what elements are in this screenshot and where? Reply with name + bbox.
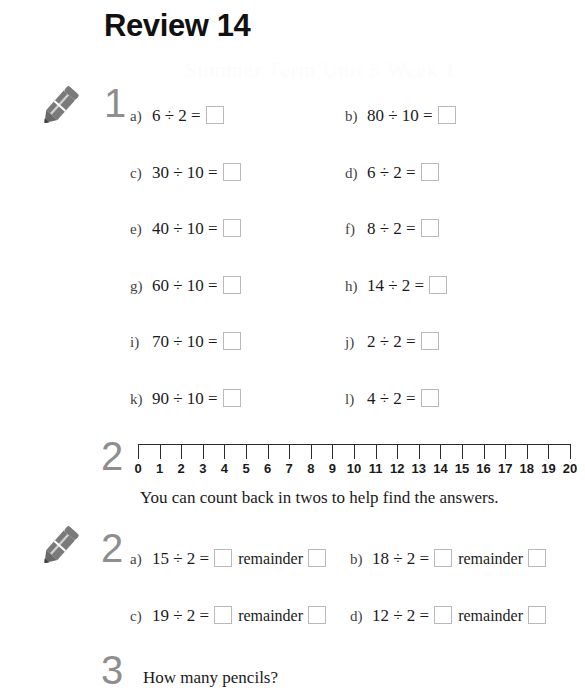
exercise-expression: 6 ÷ 2 =: [367, 164, 416, 181]
worksheet-page: Review 14 Summer Term Unit 5 Week 1: [0, 0, 585, 697]
answer-box[interactable]: [214, 549, 232, 567]
remainder-box[interactable]: [308, 549, 326, 567]
number-line-tick: [570, 444, 571, 459]
exercise-item: f)8 ÷ 2 =: [345, 219, 441, 237]
exercise-expression: 6 ÷ 2 =: [152, 107, 201, 124]
answer-box[interactable]: [223, 276, 241, 294]
answer-box[interactable]: [214, 606, 232, 624]
number-line-hint: You can count back in twos to help find …: [140, 488, 499, 508]
exercise-label: d): [350, 609, 370, 624]
remainder-label: remainder: [458, 550, 523, 567]
remainder-box[interactable]: [528, 549, 546, 567]
answer-box[interactable]: [206, 106, 224, 124]
exercise-label: g): [130, 279, 150, 294]
exercise-item: h)14 ÷ 2 =: [345, 276, 449, 294]
number-line-label: 18: [520, 461, 534, 476]
exercise-item: b)18 ÷ 2 =remainder: [350, 549, 548, 567]
number-line-label: 5: [242, 461, 249, 476]
number-line-label: 3: [199, 461, 206, 476]
number-line-tick: [462, 444, 463, 459]
exercise-label: c): [130, 166, 150, 181]
exercise-expression: 90 ÷ 10 =: [152, 390, 218, 407]
answer-box[interactable]: [434, 549, 452, 567]
number-line-tick: [376, 444, 377, 459]
number-line-tick: [440, 444, 441, 459]
question-3-prompt: How many pencils?: [143, 668, 278, 688]
page-title: Review 14: [104, 8, 250, 44]
exercise-expression: 8 ÷ 2 =: [367, 220, 416, 237]
question-number-2: 2: [101, 528, 123, 568]
exercise-expression: 70 ÷ 10 =: [152, 333, 218, 350]
exercise-item: k)90 ÷ 10 =: [130, 389, 243, 407]
answer-box[interactable]: [223, 389, 241, 407]
exercise-item: d)6 ÷ 2 =: [345, 163, 441, 181]
exercise-item: b)80 ÷ 10 =: [345, 106, 458, 124]
number-line: 01234567891011121314151617181920: [138, 444, 570, 484]
exercise-item: l)4 ÷ 2 =: [345, 389, 441, 407]
scan-ghost-text: Summer Term Unit 5 Week 1: [185, 58, 456, 83]
number-line-tick: [160, 444, 161, 459]
exercise-item: a)6 ÷ 2 =: [130, 106, 226, 124]
exercise-expression: 18 ÷ 2 =: [372, 550, 429, 567]
number-line-tick: [397, 444, 398, 459]
answer-box[interactable]: [421, 332, 439, 350]
exercise-label: d): [345, 166, 365, 181]
exercise-label: h): [345, 279, 365, 294]
pencil-icon: [28, 522, 94, 572]
number-line-label: 7: [286, 461, 293, 476]
exercise-label: f): [345, 222, 365, 237]
exercise-label: b): [345, 109, 365, 124]
number-line-label: 8: [307, 461, 314, 476]
answer-box[interactable]: [223, 219, 241, 237]
number-line-label: 16: [476, 461, 490, 476]
exercise-item: j)2 ÷ 2 =: [345, 332, 441, 350]
number-line-label: 6: [264, 461, 271, 476]
number-line-label: 4: [221, 461, 228, 476]
exercise-item: a)15 ÷ 2 =remainder: [130, 549, 328, 567]
number-line-tick: [181, 444, 182, 459]
question-number-1: 1: [104, 83, 126, 123]
question-number-3: 3: [101, 650, 123, 690]
exercise-expression: 30 ÷ 10 =: [152, 164, 218, 181]
number-line-tick: [548, 444, 549, 459]
exercise-expression: 19 ÷ 2 =: [152, 607, 209, 624]
exercise-label: b): [350, 552, 370, 567]
remainder-label: remainder: [238, 550, 303, 567]
exercise-label: e): [130, 222, 150, 237]
answer-box[interactable]: [421, 389, 439, 407]
answer-box[interactable]: [223, 163, 241, 181]
number-line-tick: [419, 444, 420, 459]
number-line-label: 14: [433, 461, 447, 476]
answer-box[interactable]: [429, 276, 447, 294]
exercise-expression: 14 ÷ 2 =: [367, 277, 424, 294]
exercise-item: g)60 ÷ 10 =: [130, 276, 243, 294]
question-number-2-numberline: 2: [101, 436, 123, 476]
exercise-label: c): [130, 609, 150, 624]
number-line-label: 2: [178, 461, 185, 476]
number-line-label: 17: [498, 461, 512, 476]
answer-box[interactable]: [421, 163, 439, 181]
number-line-label: 12: [390, 461, 404, 476]
number-line-label: 9: [329, 461, 336, 476]
number-line-label: 15: [455, 461, 469, 476]
exercise-label: a): [130, 109, 150, 124]
exercise-expression: 4 ÷ 2 =: [367, 390, 416, 407]
number-line-tick: [311, 444, 312, 459]
number-line-label: 13: [412, 461, 426, 476]
number-line-tick: [268, 444, 269, 459]
exercise-expression: 15 ÷ 2 =: [152, 550, 209, 567]
number-line-label: 0: [134, 461, 141, 476]
answer-box[interactable]: [434, 606, 452, 624]
number-line-tick: [246, 444, 247, 459]
remainder-box[interactable]: [308, 606, 326, 624]
answer-box[interactable]: [421, 219, 439, 237]
answer-box[interactable]: [438, 106, 456, 124]
number-line-tick: [138, 444, 139, 459]
answer-box[interactable]: [223, 332, 241, 350]
number-line-tick: [484, 444, 485, 459]
number-line-tick: [289, 444, 290, 459]
remainder-box[interactable]: [528, 606, 546, 624]
number-line-tick: [224, 444, 225, 459]
number-line-label: 10: [347, 461, 361, 476]
exercise-label: l): [345, 392, 365, 407]
